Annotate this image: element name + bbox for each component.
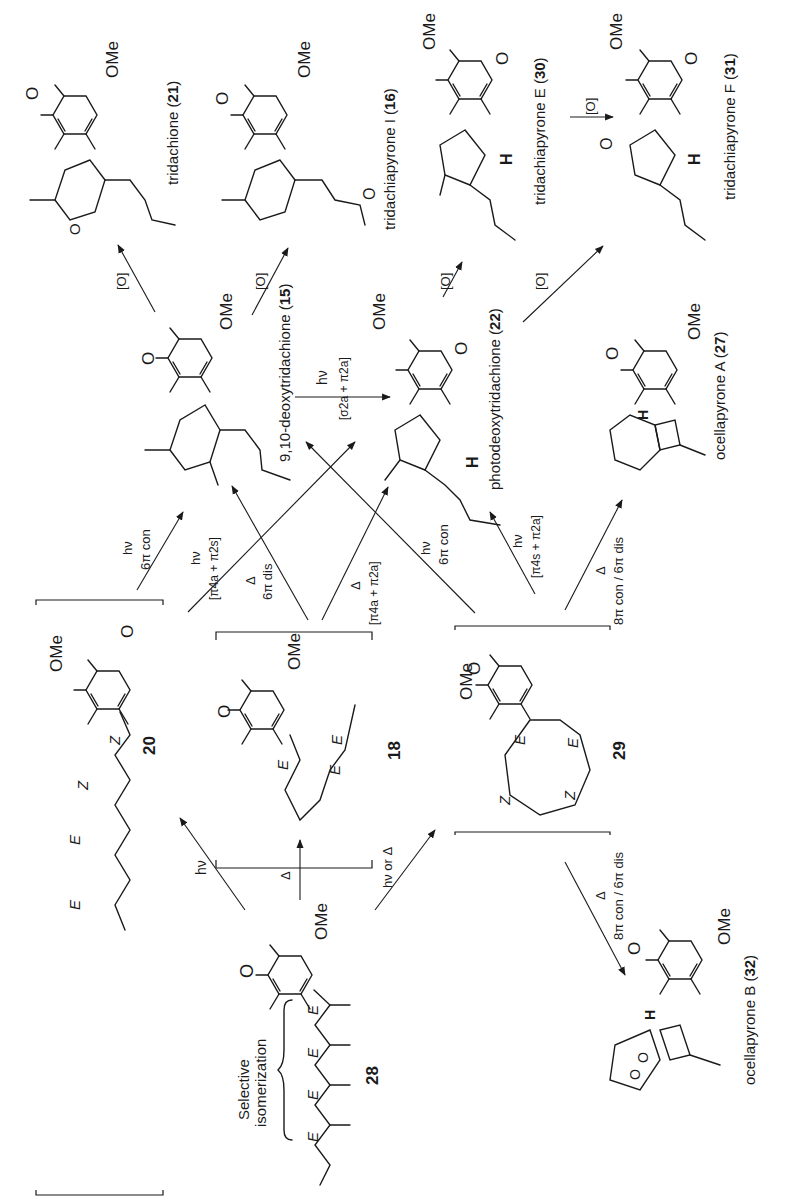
svg-text:E: E bbox=[326, 764, 343, 775]
svg-text:Δ: Δ bbox=[243, 576, 258, 585]
arrow-28-to-20: hν bbox=[180, 818, 245, 910]
svg-text:6π dis: 6π dis bbox=[260, 563, 275, 600]
svg-text:O: O bbox=[361, 188, 378, 200]
svg-text:[O]: [O] bbox=[438, 273, 453, 290]
svg-text:O: O bbox=[118, 625, 137, 638]
arrow-22-to-30: [O] bbox=[438, 262, 462, 297]
compound-20: O OMe Z Z E E 20 bbox=[36, 600, 163, 1195]
arrow-18-to-22: Δ [π4a + π2a] bbox=[322, 487, 388, 625]
svg-text:E: E bbox=[564, 737, 581, 748]
arrow-28-to-29: hν or Δ bbox=[375, 830, 435, 910]
svg-text:OMe: OMe bbox=[217, 293, 236, 330]
svg-text:[σ2a + π2a]: [σ2a + π2a] bbox=[337, 357, 351, 420]
arrow-20-to-15: hν 6π con bbox=[120, 512, 183, 590]
svg-text:O: O bbox=[139, 352, 158, 365]
svg-text:hν: hν bbox=[510, 534, 525, 548]
annotation-isomerization: isomerization bbox=[252, 1039, 269, 1127]
svg-text:[π4a + π2s]: [π4a + π2s] bbox=[207, 537, 221, 600]
svg-text:H: H bbox=[464, 456, 481, 468]
svg-text:O: O bbox=[682, 52, 701, 65]
svg-text:E: E bbox=[304, 1131, 321, 1142]
svg-text:Z: Z bbox=[106, 735, 123, 746]
compound-16: O OMe O tridachiapyrone I (16) bbox=[213, 41, 398, 230]
svg-text:6π con: 6π con bbox=[138, 529, 153, 570]
svg-text:H: H bbox=[686, 153, 703, 165]
compound-21: O OMe O tridachione (21) bbox=[23, 41, 181, 235]
svg-text:OMe: OMe bbox=[685, 303, 704, 340]
svg-text:Z: Z bbox=[74, 780, 91, 791]
compound-name: tridachiapyrone F (31) bbox=[721, 53, 738, 200]
svg-text:[π4s + π2a]: [π4s + π2a] bbox=[529, 515, 543, 578]
svg-text:H: H bbox=[498, 153, 515, 165]
compound-31: O OMe O H tridachiapyrone F (31) bbox=[598, 13, 738, 240]
svg-text:H: H bbox=[642, 1010, 658, 1020]
compound-number: 29 bbox=[610, 741, 629, 760]
svg-text:OMe: OMe bbox=[47, 635, 66, 672]
svg-text:O: O bbox=[213, 92, 232, 105]
svg-text:hν: hν bbox=[193, 860, 209, 875]
compound-name: tridachiapyrone E (30) bbox=[531, 57, 548, 205]
svg-text:hν: hν bbox=[314, 370, 330, 385]
svg-text:H: H bbox=[635, 410, 651, 420]
svg-text:Z: Z bbox=[561, 790, 578, 801]
svg-text:O: O bbox=[627, 1069, 643, 1080]
svg-text:Δ: Δ bbox=[348, 581, 363, 590]
svg-text:[O]: [O] bbox=[533, 273, 548, 290]
svg-text:OMe: OMe bbox=[285, 633, 304, 670]
compound-name: 9,10-deoxytridachione (15) bbox=[276, 284, 293, 462]
arrow-29-to-27: Δ 8π con / 6π dis bbox=[565, 500, 626, 625]
svg-text:hν: hν bbox=[188, 551, 203, 565]
arrow-30-to-31: [O] bbox=[570, 98, 613, 117]
svg-text:O: O bbox=[625, 942, 644, 955]
svg-text:E: E bbox=[304, 1089, 321, 1100]
compound-name: ocellapyrone A (27) bbox=[711, 332, 728, 460]
ome-label: OMe bbox=[312, 903, 331, 940]
svg-text:hν: hν bbox=[418, 541, 433, 555]
compound-number: 18 bbox=[385, 741, 404, 760]
svg-text:O: O bbox=[452, 342, 471, 355]
svg-text:6π con: 6π con bbox=[436, 524, 451, 565]
svg-text:E: E bbox=[328, 734, 345, 745]
arrow-15-to-21: [O] bbox=[114, 245, 155, 312]
svg-text:[O]: [O] bbox=[114, 273, 129, 290]
arrow-15-to-22: hν [σ2a + π2a] bbox=[295, 357, 390, 420]
arrow-29-to-15: hν 6π con bbox=[306, 442, 475, 613]
compound-name: tridachione (21) bbox=[164, 81, 181, 185]
compound-27: O OMe H ocellapyrone A (27) bbox=[603, 303, 728, 470]
compound-28: O OMe E E E E Selective isomerization 28 bbox=[235, 903, 382, 1185]
svg-text:E: E bbox=[304, 1004, 321, 1015]
svg-text:O: O bbox=[603, 347, 622, 360]
svg-text:OMe: OMe bbox=[607, 13, 626, 50]
svg-text:Δ: Δ bbox=[593, 891, 608, 900]
svg-text:O: O bbox=[598, 138, 615, 150]
arrow-18-to-15: Δ 6π dis bbox=[232, 486, 308, 620]
svg-text:[O]: [O] bbox=[253, 273, 268, 290]
carbonyl-o: O bbox=[237, 964, 257, 978]
svg-text:O: O bbox=[23, 87, 42, 100]
svg-text:hν: hν bbox=[120, 541, 135, 555]
svg-text:OMe: OMe bbox=[715, 908, 734, 945]
compound-number: 20 bbox=[140, 736, 159, 755]
svg-text:[π4a + π2a]: [π4a + π2a] bbox=[367, 561, 381, 625]
svg-text:Δ: Δ bbox=[278, 871, 293, 880]
compound-22: O OMe H photodeoxytridachione (22) bbox=[370, 293, 503, 525]
compound-18: O OMe E E E 18 bbox=[215, 632, 404, 868]
svg-text:O: O bbox=[215, 705, 234, 718]
arrow-29-to-32: Δ 8π con / 6π dis bbox=[565, 851, 626, 975]
compound-32: O OMe O O H ocellapyrone B (32) bbox=[610, 908, 758, 1090]
svg-text:[O]: [O] bbox=[583, 98, 598, 115]
svg-text:Z: Z bbox=[496, 795, 513, 806]
svg-text:OMe: OMe bbox=[420, 13, 439, 50]
svg-text:E: E bbox=[511, 734, 528, 745]
svg-text:E: E bbox=[304, 1047, 321, 1058]
svg-text:E: E bbox=[274, 759, 291, 770]
svg-text:Δ: Δ bbox=[593, 566, 608, 575]
svg-text:O: O bbox=[66, 223, 83, 235]
compound-name: ocellapyrone B (32) bbox=[741, 955, 758, 1085]
compound-29: O OMe E Z Z E 29 bbox=[455, 626, 629, 835]
svg-text:E: E bbox=[66, 899, 83, 910]
svg-text:E: E bbox=[66, 834, 83, 845]
svg-text:O: O bbox=[635, 1052, 651, 1063]
svg-text:O: O bbox=[493, 52, 512, 65]
compound-15: O OMe 9,10-deoxytridachione (15) bbox=[139, 284, 293, 485]
